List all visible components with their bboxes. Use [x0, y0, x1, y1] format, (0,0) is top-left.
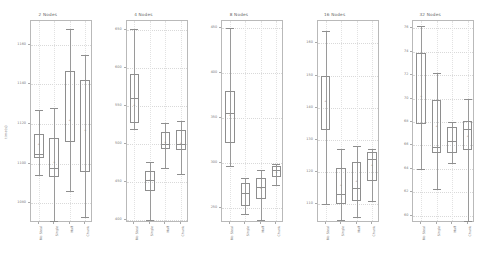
x-tick-mark: [325, 222, 326, 224]
whisker-cap-upper: [81, 55, 89, 56]
gridline-horizontal: [222, 208, 282, 209]
whisker-cap-upper: [464, 99, 472, 100]
y-tick-mark: [124, 143, 126, 144]
x-tick-label: Chunk: [86, 226, 90, 236]
y-tick-label: 1100: [6, 161, 26, 165]
x-tick-label: Single: [55, 226, 59, 236]
y-tick-label: 300: [197, 160, 217, 164]
panel-4-nodes: 4 Nodes++++400450500550600650No StealSin…: [96, 0, 192, 265]
whisker-cap-lower: [337, 220, 345, 221]
y-tick-label: 72: [388, 72, 408, 76]
y-tick-label: 1080: [6, 200, 26, 204]
box: [49, 138, 59, 178]
mean-marker: +: [275, 170, 278, 173]
y-tick-label: 450: [102, 179, 122, 183]
y-tick-label: 400: [102, 217, 122, 221]
x-tick-label: Chunk: [181, 226, 185, 236]
x-tick-label: Single: [341, 226, 345, 236]
mean-marker: +: [355, 180, 358, 183]
x-tick-label: Single: [246, 226, 250, 236]
x-tick-label: Half: [166, 226, 170, 233]
y-tick-label: 62: [388, 189, 408, 193]
y-tick-mark: [124, 181, 126, 182]
mean-marker: +: [164, 140, 167, 143]
y-tick-label: 500: [102, 141, 122, 145]
mean-marker: +: [260, 186, 263, 189]
gridline-vertical: [452, 21, 453, 221]
whisker-cap-lower: [66, 191, 74, 192]
x-tick-mark: [164, 222, 165, 224]
whisker-line: [468, 99, 469, 221]
x-tick-mark: [436, 222, 437, 224]
mean-marker: +: [84, 128, 87, 131]
median-line: [65, 71, 75, 72]
x-tick-label: Chunk: [468, 226, 472, 236]
y-tick-label: 150: [293, 73, 313, 77]
whisker-cap-upper: [433, 73, 441, 74]
gridline-horizontal: [31, 45, 91, 46]
whisker-cap-upper: [448, 122, 456, 123]
y-tick-mark: [219, 72, 221, 73]
y-tick-mark: [124, 67, 126, 68]
y-tick-label: 110: [293, 201, 313, 205]
y-tick-label: 1140: [6, 81, 26, 85]
whisker-cap-upper: [241, 178, 249, 179]
y-tick-mark: [315, 203, 317, 204]
x-tick-label: Half: [261, 226, 265, 233]
plot-area: ++++: [317, 20, 379, 222]
y-tick-mark: [219, 207, 221, 208]
y-tick-mark: [28, 163, 30, 164]
y-tick-label: 74: [388, 49, 408, 53]
gridline-horizontal: [127, 68, 187, 69]
x-tick-mark: [371, 222, 372, 224]
y-tick-mark: [219, 117, 221, 118]
y-tick-mark: [124, 29, 126, 30]
mean-marker: +: [68, 119, 71, 122]
gridline-vertical: [165, 21, 166, 221]
whisker-cap-upper: [66, 29, 74, 30]
whisker-cap-lower: [146, 220, 154, 221]
y-tick-mark: [28, 202, 30, 203]
whisker-cap-upper: [35, 110, 43, 111]
x-tick-mark: [38, 222, 39, 224]
y-tick-label: 450: [197, 25, 217, 29]
box: [367, 152, 377, 181]
median-line: [463, 129, 473, 130]
y-tick-mark: [315, 75, 317, 76]
panel-8-nodes: 8 Nodes++++250300350400450No StealSingle…: [191, 0, 287, 265]
y-tick-mark: [410, 144, 412, 145]
x-tick-mark: [340, 222, 341, 224]
whisker-cap-lower: [272, 185, 280, 186]
y-tick-mark: [410, 168, 412, 169]
whisker-cap-upper: [177, 121, 185, 122]
whisker-cap-upper: [337, 149, 345, 150]
mean-marker: +: [180, 141, 183, 144]
y-tick-label: 1160: [6, 42, 26, 46]
x-tick-label: No Steal: [230, 226, 234, 240]
y-tick-label: 68: [388, 119, 408, 123]
whisker-cap-upper: [50, 108, 58, 109]
y-tick-label: 600: [102, 65, 122, 69]
whisker-cap-lower: [81, 217, 89, 218]
whisker-cap-lower: [368, 201, 376, 202]
y-tick-mark: [410, 98, 412, 99]
x-tick-label: Single: [437, 226, 441, 236]
boxplot-figure: time(s) 2 Nodes++++10801100112011401160N…: [0, 0, 479, 265]
plot-area: ++++: [126, 20, 188, 222]
whisker-cap-lower: [241, 214, 249, 215]
y-tick-label: 120: [293, 169, 313, 173]
panel-title: 4 Nodes: [96, 12, 192, 17]
mean-marker: +: [371, 164, 374, 167]
x-tick-mark: [420, 222, 421, 224]
panel-title: 16 Nodes: [287, 12, 383, 17]
mean-marker: +: [420, 95, 423, 98]
gridline-vertical: [276, 21, 277, 221]
mean-marker: +: [229, 114, 232, 117]
x-tick-mark: [275, 222, 276, 224]
y-tick-mark: [28, 123, 30, 124]
whisker-cap-lower: [226, 166, 234, 167]
gridline-horizontal: [318, 43, 378, 44]
y-tick-mark: [410, 74, 412, 75]
y-tick-mark: [315, 42, 317, 43]
y-tick-label: 250: [197, 205, 217, 209]
